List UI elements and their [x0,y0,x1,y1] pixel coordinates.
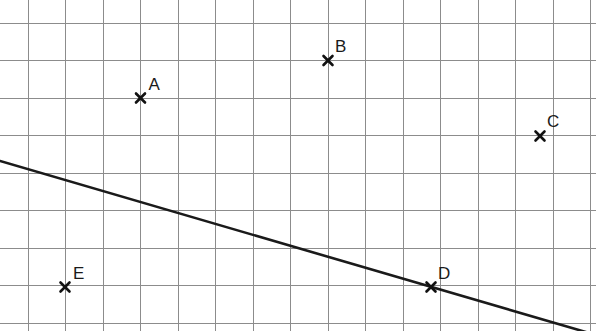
point-label-a: A [149,76,160,93]
plot-canvas [0,0,596,331]
coordinate-grid-figure: ABCDE [0,0,596,331]
point-label-e: E [73,265,84,282]
point-label-c: C [547,113,559,130]
grid-vertical-lines [28,0,591,331]
grid-horizontal-lines [0,23,596,323]
point-label-d: D [438,265,450,282]
data-point-markers [61,56,545,292]
trend-line [0,161,596,331]
point-label-b: B [335,38,346,55]
plotted-straight-line [0,161,596,331]
